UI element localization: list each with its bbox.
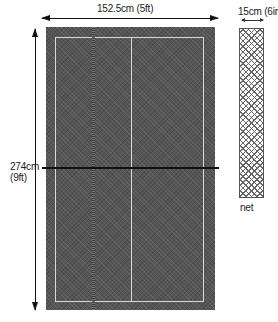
length-label-imperial: (9ft) xyxy=(10,172,27,183)
table-border-line xyxy=(55,37,204,302)
width-dimension-arrow xyxy=(42,18,218,19)
net-line xyxy=(42,167,219,169)
net-height-arrow xyxy=(242,20,263,21)
net-mesh xyxy=(239,28,264,198)
center-line xyxy=(131,37,132,302)
net-height-label: 15cm (6ins) xyxy=(238,6,278,17)
net-label: net xyxy=(240,202,253,213)
width-label: 152.5cm (5ft) xyxy=(97,3,153,14)
length-label: 274cm xyxy=(10,161,39,172)
